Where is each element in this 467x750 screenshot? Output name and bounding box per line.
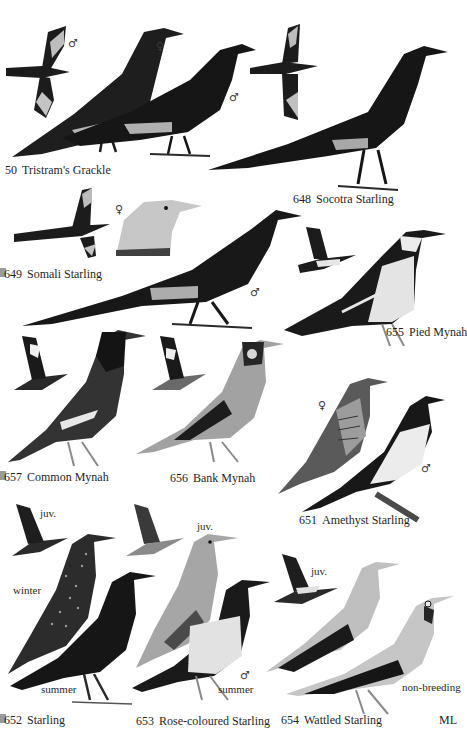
species-label-starling: 652Starling	[4, 714, 65, 726]
bank-mynah-illustration	[134, 336, 284, 466]
species-label-pied-mynah: 655Pied Mynah	[386, 326, 467, 338]
socotra-starling-illustration	[208, 44, 448, 192]
species-label-amethyst-starling: 651Amethyst Starling	[299, 514, 410, 526]
note-non-breeding: non-breeding	[402, 682, 461, 693]
species-label-tristrams-grackle: 50Tristram's Grackle	[5, 164, 111, 176]
species-label-somali-starling: 649Somali Starling	[4, 268, 102, 280]
wattled-starling-non-breeding-illustration	[284, 590, 454, 718]
common-mynah-illustration	[6, 326, 146, 472]
species-label-bank-mynah: 656Bank Mynah	[170, 472, 255, 484]
amethyst-starling-male-illustration	[300, 392, 445, 512]
artist-initials: ML	[439, 714, 457, 726]
species-label-wattled-starling: 654Wattled Starling	[281, 714, 382, 726]
sex-symbol-male: ♂	[240, 670, 250, 681]
note-summer: summer	[41, 684, 76, 695]
note-summer: summer	[218, 684, 253, 695]
note-juvenile: juv.	[40, 508, 56, 519]
species-label-socotra-starling: 648Socotra Starling	[293, 193, 394, 205]
species-label-rose-coloured-starling: 653Rose-coloured Starling	[136, 715, 270, 727]
sex-symbol-male: ♂	[421, 463, 431, 474]
sex-symbol-male: ♂	[250, 287, 260, 298]
species-label-common-mynah: 657Common Mynah	[4, 471, 109, 483]
